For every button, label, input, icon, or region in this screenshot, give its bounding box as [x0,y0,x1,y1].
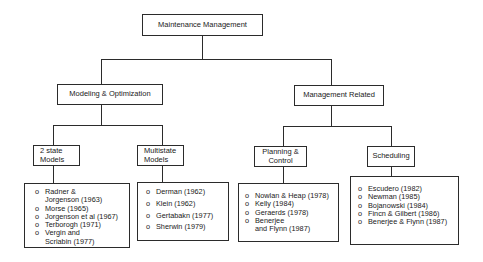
two-state-models-node: 2 state Models [33,145,80,166]
connector-to-scheduling [391,126,392,146]
connector-multistate-list [162,165,163,182]
bullet-icon: o [146,223,150,231]
connector-to-management [331,59,332,85]
reference-item: oKlein (1962) [143,200,228,208]
connector-to-planning [283,126,284,146]
bullet-icon: o [146,200,150,208]
bullet-icon: o [358,218,362,226]
management-related-node: Management Related [294,85,384,106]
modeling-optimization-node: Modeling & Optimization [57,84,163,105]
two-state-label-line2: Models [40,156,64,165]
connector-management-horizontal [283,126,392,127]
modeling-optimization-label: Modeling & Optimization [69,90,150,99]
root-node: Maintenance Management [142,14,263,36]
planning-control-node: Planning & Control [254,146,307,167]
scheduling-label: Scheduling [372,152,409,161]
connector-modeling-down [101,104,102,125]
scheduling-references-box: oEscudero (1982) oNewman (1985) oBojanow… [350,176,459,245]
connector-management-down [331,105,332,126]
planning-label-line2: Control [262,157,298,166]
bullet-icon: o [146,188,150,196]
reference-item: oGertabakn (1977) [143,212,228,220]
bullet-icon: o [35,188,39,196]
connector-2state-list [53,165,54,183]
reference-item: oBenerjeeand Flynn (1987) [242,217,338,234]
two-state-references-box: oRadner &Jorgenson (1963) oMorse (1965) … [24,183,130,248]
multistate-models-node: Multistate Models [137,145,184,166]
bullet-icon: o [146,212,150,220]
root-label: Maintenance Management [158,21,247,30]
multistate-references-box: oDerman (1962) oKlein (1962) oGertabakn … [137,182,229,241]
planning-control-references-box: oNowlan & Heap (1978) oKelly (1984) oGer… [238,183,339,242]
connector-to-2state [53,125,54,145]
reference-item: oVergin andScriabin (1977) [32,229,129,246]
bullet-icon: o [245,217,249,225]
reference-item: oBenerjee & Flynn (1987) [355,218,458,226]
connector-to-modeling [101,59,102,84]
connector-level1-horizontal [101,59,332,60]
reference-item: oSherwin (1979) [143,223,228,231]
connector-scheduling-list [391,167,392,176]
connector-modeling-horizontal [53,125,163,126]
connector-to-multistate [162,125,163,145]
connector-root-down [202,35,203,59]
bullet-icon: o [35,229,39,237]
scheduling-node: Scheduling [367,146,415,167]
management-related-label: Management Related [303,91,375,100]
multistate-label-line2: Models [144,156,176,165]
reference-item: oDerman (1962) [143,188,228,196]
connector-planning-list [283,166,284,183]
reference-item: oRadner &Jorgenson (1963) [32,188,129,205]
